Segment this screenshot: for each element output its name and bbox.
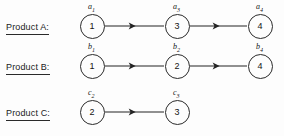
node-tag-subscript: 3 [177, 7, 180, 13]
edge-arrow [105, 106, 164, 118]
edge-arrow [190, 60, 247, 72]
node-tag: c3 [173, 88, 180, 101]
graph-node: 3 [165, 14, 190, 39]
graph-node: 2 [165, 54, 190, 79]
graph-node: 1 [80, 54, 105, 79]
node-value: 4 [257, 22, 262, 31]
product-routing-diagram: Product A:a11a33a44Product B:b11b22b44Pr… [0, 0, 284, 136]
graph-node: 4 [248, 14, 273, 39]
graph-node: 1 [80, 14, 105, 39]
edge-arrow [105, 20, 164, 32]
node-tag: c2 [88, 88, 95, 101]
node-value: 2 [174, 62, 179, 71]
node-tag-subscript: 4 [260, 47, 263, 53]
node-tag: b1 [88, 42, 95, 55]
node-tag: b2 [173, 42, 180, 55]
node-tag-subscript: 1 [92, 7, 95, 13]
product-label: Product C: [6, 108, 50, 121]
graph-node: 2 [80, 100, 105, 125]
graph-node: 3 [165, 100, 190, 125]
node-value: 1 [89, 22, 94, 31]
edge-arrow [105, 60, 164, 72]
node-tag-subscript: 4 [260, 7, 263, 13]
node-value: 4 [257, 62, 262, 71]
node-tag-subscript: 2 [92, 93, 95, 99]
node-tag: a1 [88, 2, 95, 15]
node-value: 2 [89, 108, 94, 117]
node-tag-subscript: 2 [177, 47, 180, 53]
product-label: Product A: [6, 22, 49, 35]
node-tag: b4 [256, 42, 263, 55]
graph-node: 4 [248, 54, 273, 79]
node-value: 3 [174, 22, 179, 31]
node-value: 3 [174, 108, 179, 117]
product-label: Product B: [6, 62, 50, 75]
node-value: 1 [89, 62, 94, 71]
node-tag-subscript: 1 [92, 47, 95, 53]
node-tag: a4 [256, 2, 263, 15]
node-tag-subscript: 3 [177, 93, 180, 99]
node-tag: a3 [173, 2, 180, 15]
edge-arrow [190, 20, 247, 32]
